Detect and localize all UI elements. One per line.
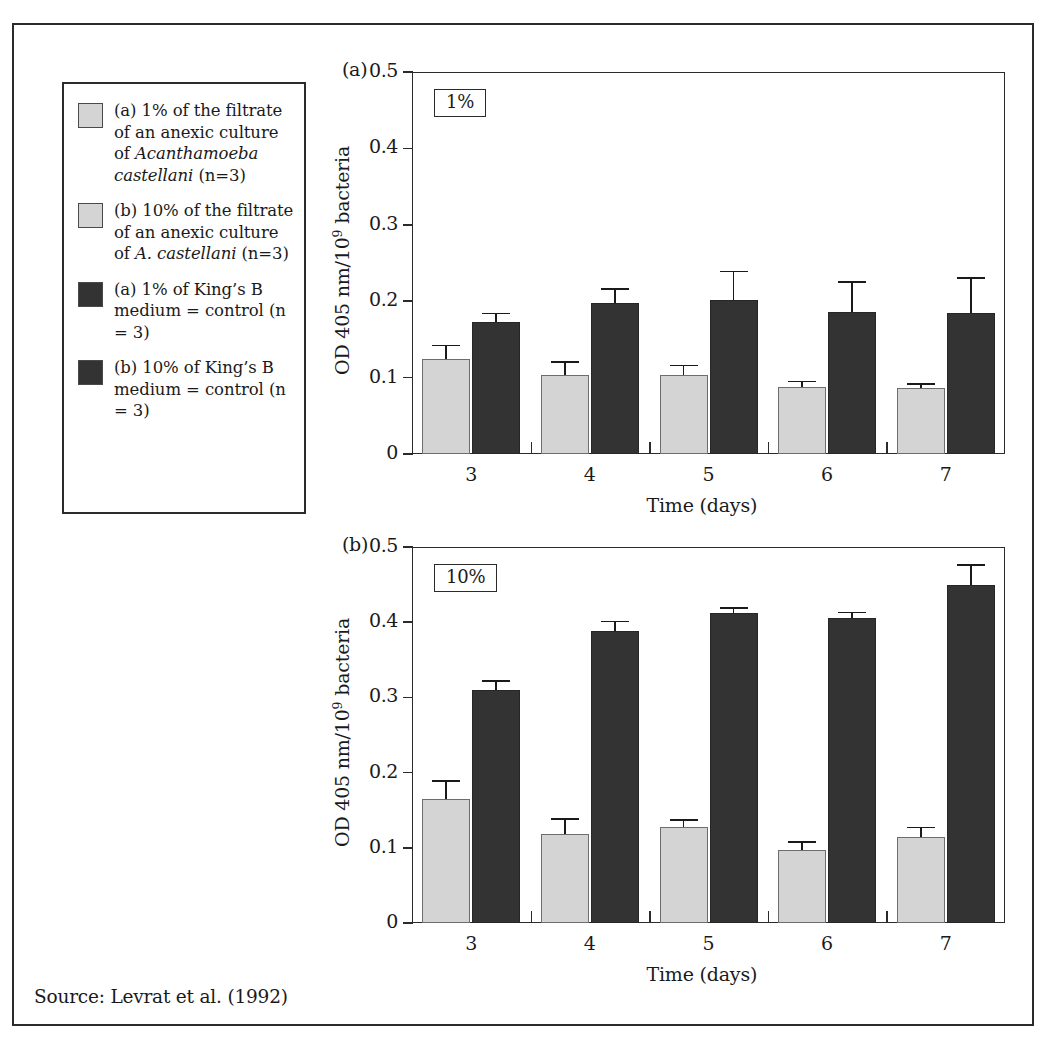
bar [710,613,758,923]
x-tick-mark [768,911,770,923]
error-bar-cap [482,680,510,682]
error-bar-stem [495,681,497,690]
panel-concentration-badge: 10% [434,564,497,592]
x-axis-title: Time (days) [647,963,758,985]
source-note: Source: Levrat et al. (1992) [34,986,288,1007]
error-bar-stem [614,621,616,631]
error-bar-cap [601,621,629,623]
y-tick-label: 0.2 [350,760,398,782]
x-tick-label: 4 [550,932,630,954]
error-bar-cap [957,564,985,566]
x-tick-mark [531,911,533,923]
x-tick-mark [649,911,651,923]
y-tick-mark [403,922,413,924]
y-tick-mark [403,847,413,849]
y-tick-label: 0.5 [350,534,398,556]
chart-panel-b: (b)10%00.10.20.30.40.5OD 405 nm/109 bact… [14,25,1036,1028]
y-tick-label: 0.3 [350,684,398,706]
bar [897,837,945,923]
x-tick-label: 5 [669,932,749,954]
bar [947,585,995,923]
y-axis-title: OD 405 nm/109 bacteria [330,618,353,847]
y-tick-label: 0.1 [350,835,398,857]
x-tick-mark [886,911,888,923]
y-tick-label: 0.4 [350,609,398,631]
x-tick-label: 6 [787,932,867,954]
error-bar-cap [838,612,866,614]
error-bar-cap [907,827,935,829]
y-tick-mark [403,772,413,774]
error-bar-stem [920,827,922,836]
error-bar-cap [432,780,460,782]
x-tick-label: 3 [431,932,511,954]
bar [778,850,826,923]
error-bar-cap [788,841,816,843]
error-bar-stem [801,842,803,850]
y-tick-mark [403,621,413,623]
error-bar-cap [551,818,579,820]
bar [660,827,708,923]
y-tick-mark [403,546,413,548]
bar [828,618,876,923]
error-bar-stem [683,820,685,828]
y-tick-label: 0 [350,910,398,932]
bar [422,799,470,923]
y-tick-mark [403,697,413,699]
bar [591,631,639,923]
error-bar-cap [720,607,748,609]
figure-outer-frame: (a) 1% of the filtrate of an anexic cult… [12,23,1034,1026]
error-bar-stem [564,819,566,833]
error-bar-cap [670,819,698,821]
error-bar-stem [970,565,972,585]
bar [541,834,589,923]
x-tick-label: 7 [906,932,986,954]
bar [472,690,520,923]
error-bar-stem [445,781,447,799]
